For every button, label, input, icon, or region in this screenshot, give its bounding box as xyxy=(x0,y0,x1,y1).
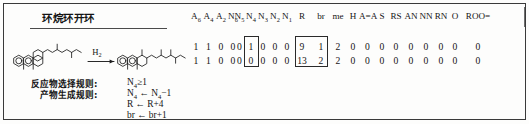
matrix-column-header: A6 xyxy=(190,9,202,27)
figure-container: 环烷环开环 xyxy=(0,0,529,124)
matrix-column-header: N4 xyxy=(245,9,257,27)
matrix-column-header: br xyxy=(315,9,327,23)
matrix-cell: 0 xyxy=(404,40,418,54)
matrix-cell: 0 xyxy=(215,40,227,54)
matrix-cell: 0 xyxy=(281,40,293,54)
matrix-cell: 0 xyxy=(434,40,448,54)
matrix-cell: 0 xyxy=(359,54,376,68)
rule-expression-2: R ← R+4 xyxy=(127,99,164,109)
matrix-column-header: me xyxy=(331,9,345,23)
matrix-column-header: S xyxy=(376,9,388,23)
matrix-cell: 0 xyxy=(347,54,359,68)
matrix-column-header: H xyxy=(347,9,359,23)
matrix-cell: 1 xyxy=(190,54,202,68)
matrix-cell: 2 xyxy=(331,54,345,68)
matrix-cell: 0 xyxy=(449,40,461,54)
matrix-cell: 0 xyxy=(463,54,493,68)
title-underline xyxy=(30,28,167,29)
matrix-column-header: N5 xyxy=(234,9,246,27)
matrix-cell: 0 xyxy=(389,54,403,68)
reactant-structure xyxy=(14,44,81,69)
product-structure xyxy=(118,50,185,69)
matrix-cell: 0 xyxy=(281,54,293,68)
rule-expression-3: br ← br+1 xyxy=(127,110,167,120)
matrix-cell: 1 xyxy=(315,40,327,54)
reaction-structures-svg: H2 xyxy=(4,30,190,76)
rule-label-product-generation: 产物生成规则: xyxy=(40,88,97,100)
matrix-column-header: N2 xyxy=(269,9,281,27)
matrix-cell: 0 xyxy=(234,40,246,54)
matrix-cell: 0 xyxy=(449,54,461,68)
reaction-diagram: H2 xyxy=(4,30,190,76)
reagent-label: H2 xyxy=(92,47,101,58)
matrix-column-header: RS xyxy=(389,9,403,23)
matrix-column-header: RN xyxy=(434,9,448,23)
transformation-rules: 反应物选择规则: 产物生成规则: N4≥1 N4 ← N4−1 R ← R+4 … xyxy=(31,77,187,123)
matrix-cell: 0 xyxy=(419,40,433,54)
matrix-cell: 0 xyxy=(257,40,269,54)
matrix-cell: 0 xyxy=(376,40,388,54)
matrix-cell: 1 xyxy=(190,40,202,54)
matrix-column-header: R xyxy=(296,9,308,23)
matrix-column-header: ROO= xyxy=(463,9,493,23)
matrix-cell: 0 xyxy=(463,40,493,54)
reaction-scheme-panel: 环烷环开环 xyxy=(4,4,190,119)
descriptor-matrix: A6A4A2N6N5N4N3N2N1RbrmeHA=ASRSANNNRNOROO… xyxy=(190,4,525,119)
matrix-cell: 13 xyxy=(296,54,308,68)
matrix-cell: 0 xyxy=(389,40,403,54)
matrix-cell: 0 xyxy=(269,54,281,68)
matrix-cell: 0 xyxy=(404,54,418,68)
matrix-cell: 0 xyxy=(434,54,448,68)
matrix-cell: 0 xyxy=(257,54,269,68)
matrix-column-header: N3 xyxy=(257,9,269,27)
matrix-cell: 1 xyxy=(203,40,215,54)
matrix-cell: 2 xyxy=(315,54,327,68)
reaction-arrow xyxy=(88,60,114,64)
matrix-cell: 0 xyxy=(359,40,376,54)
matrix-column-header: A4 xyxy=(203,9,215,27)
matrix-cell: 2 xyxy=(331,40,345,54)
matrix-cell: 0 xyxy=(234,54,246,68)
matrix-cell: 1 xyxy=(203,54,215,68)
matrix-cell: 0 xyxy=(376,54,388,68)
matrix-cell: 0 xyxy=(245,54,257,68)
matrix-cell: 0 xyxy=(419,54,433,68)
matrix-column-header: A=A xyxy=(359,9,376,23)
scan-edge-tick xyxy=(524,7,525,27)
matrix-cell: 0 xyxy=(269,40,281,54)
matrix-column-header: O xyxy=(449,9,461,23)
matrix-column-header: A2 xyxy=(215,9,227,27)
matrix-cell: 1 xyxy=(245,40,257,54)
matrix-cell: 0 xyxy=(347,40,359,54)
matrix-column-header: NN xyxy=(419,9,433,23)
reaction-title: 环烷环开环 xyxy=(42,10,95,25)
matrix-column-header: N1 xyxy=(281,9,293,27)
matrix-column-header: AN xyxy=(404,9,418,23)
matrix-cell: 9 xyxy=(296,40,308,54)
matrix-cell: 0 xyxy=(215,54,227,68)
